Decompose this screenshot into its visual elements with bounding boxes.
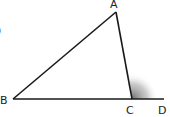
- label-d: D: [158, 104, 166, 117]
- segment-ac: [116, 12, 132, 99]
- partial-glyph: ): [0, 24, 1, 37]
- segment-ab: [13, 12, 116, 99]
- exterior-angle-shading: [128, 72, 158, 99]
- triangle-diagram: A B C D ): [0, 0, 170, 117]
- label-a: A: [110, 0, 118, 11]
- label-b: B: [0, 94, 8, 107]
- label-c: C: [126, 104, 134, 117]
